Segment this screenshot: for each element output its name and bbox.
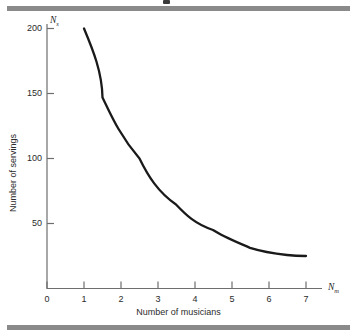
y-tick-label-50: 50 — [14, 219, 42, 228]
x-tick-label-0: 0 — [40, 295, 54, 304]
x-tick-label-6: 6 — [262, 295, 276, 304]
plot-area — [0, 0, 357, 335]
y-tick-label-100: 100 — [14, 154, 42, 163]
y-tick-label-150: 150 — [14, 89, 42, 98]
figure-container: Ns Nm 200 150 100 50 0 1 2 3 4 5 6 7 Num… — [0, 0, 357, 335]
y-tick-marks — [47, 29, 54, 224]
x-tick-label-1: 1 — [77, 295, 91, 304]
y-tick-label-200: 200 — [14, 24, 42, 33]
x-tick-label-7: 7 — [299, 295, 313, 304]
y-axis-title: Number of servings — [8, 113, 18, 233]
x-tick-marks — [47, 282, 306, 289]
x-axis-title: Number of musicians — [0, 307, 357, 317]
x-tick-label-5: 5 — [225, 295, 239, 304]
x-tick-label-2: 2 — [114, 295, 128, 304]
x-tick-label-3: 3 — [151, 295, 165, 304]
x-tick-label-4: 4 — [188, 295, 202, 304]
data-curve — [84, 29, 306, 257]
y-axis-symbol: Ns — [50, 15, 59, 27]
x-axis-symbol: Nm — [328, 282, 339, 294]
